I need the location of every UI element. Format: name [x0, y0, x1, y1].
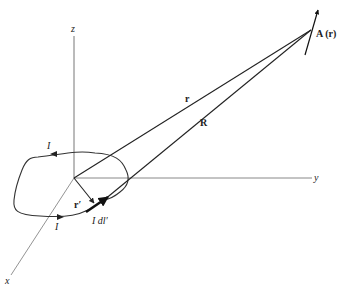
position-vector-r: [74, 30, 311, 178]
source-position-label: r′: [74, 199, 81, 210]
y-axis-label: y: [313, 172, 319, 183]
position-vector-label: r: [185, 93, 190, 104]
current-arrow-bottom-icon: [57, 214, 64, 220]
current-element-label: I dl′: [91, 215, 109, 226]
x-axis-label: x: [4, 275, 10, 286]
current-label-bottom: I: [54, 221, 59, 232]
separation-guide-line: [126, 116, 200, 176]
current-label-top: I: [46, 140, 51, 151]
separation-vector-label: R: [200, 117, 208, 128]
x-axis: [11, 178, 74, 275]
current-arrow-top-icon: [50, 151, 57, 157]
current-loop: [14, 152, 128, 216]
current-element-vector: [86, 197, 108, 212]
field-point-label: A (r): [316, 28, 336, 40]
separation-vector-R: [104, 30, 311, 200]
z-axis-label: z: [70, 23, 75, 34]
vector-potential-diagram: z y x A (r) r R r′ I dl′ I I: [0, 0, 346, 291]
